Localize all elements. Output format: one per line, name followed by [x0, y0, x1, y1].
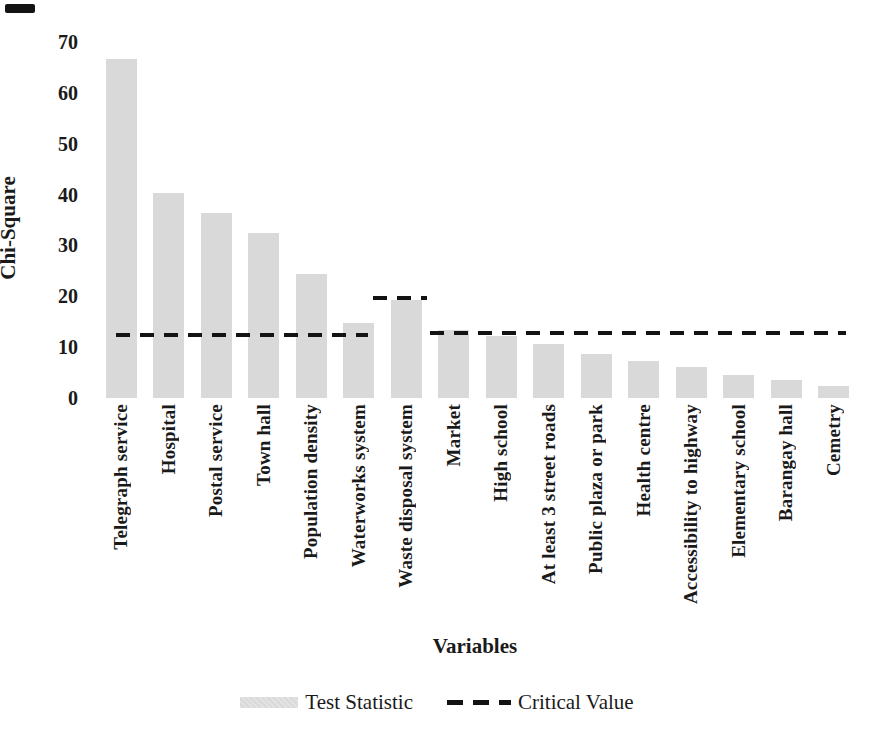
x-label-public-plaza-or-park: Public plaza or park [584, 404, 608, 574]
bar-at-least-3-street-roads [533, 344, 564, 398]
legend-label-critical-value: Critical Value [518, 690, 634, 715]
y-tick-label-50: 50 [0, 132, 78, 156]
y-tick-label-60: 60 [0, 81, 78, 105]
x-label-hospital: Hospital [157, 404, 181, 474]
x-label-elementary-school: Elementary school [727, 404, 751, 558]
x-label-telegraph-service: Telegraph service [109, 404, 133, 550]
x-label-cemetry: Cemetry [822, 404, 846, 476]
x-axis-title: Variables [100, 634, 850, 659]
bar-high-school [486, 336, 517, 398]
legend-item-test-statistic: Test Statistic [240, 690, 413, 715]
scan-artifact-mark [5, 4, 35, 13]
bar-postal-service [201, 213, 232, 398]
y-tick-label-20: 20 [0, 284, 78, 308]
x-label-high-school: High school [489, 404, 513, 502]
x-label-town-hall: Town hall [252, 404, 276, 486]
y-tick-label-0: 0 [0, 386, 78, 410]
bar-accessibility-to-highway [676, 367, 707, 398]
y-tick-label-30: 30 [0, 233, 78, 257]
x-label-at-least-3-street-roads: At least 3 street roads [537, 404, 561, 584]
bar-elementary-school [723, 375, 754, 398]
x-label-health-centre: Health centre [632, 404, 656, 517]
x-label-market: Market [442, 404, 466, 466]
bar-health-centre [628, 361, 659, 398]
bar-waste-disposal-system [391, 300, 422, 398]
bar-telegraph-service [106, 59, 137, 398]
y-tick-label-40: 40 [0, 183, 78, 207]
critical-value-segment-2 [373, 296, 428, 300]
bar-town-hall [248, 233, 279, 398]
chi-square-bar-chart: Chi-Square 010203040506070 Telegraph ser… [0, 0, 874, 739]
x-label-barangay-hall: Barangay hall [774, 404, 798, 521]
dashed-line-swatch-icon [447, 700, 511, 705]
y-tick-label-70: 70 [0, 30, 78, 54]
x-label-waste-disposal-system: Waste disposal system [394, 404, 418, 588]
critical-value-segment-1 [116, 333, 368, 337]
bar-public-plaza-or-park [581, 354, 612, 398]
legend-item-critical-value: Critical Value [447, 690, 634, 715]
bar-swatch-icon [240, 697, 298, 708]
legend: Test Statistic Critical Value [0, 690, 874, 715]
bar-barangay-hall [771, 380, 802, 398]
y-tick-label-10: 10 [0, 335, 78, 359]
bar-hospital [153, 193, 184, 398]
x-label-accessibility-to-highway: Accessibility to highway [679, 404, 703, 604]
critical-value-segment-3 [430, 331, 846, 335]
x-label-population-density: Population density [299, 404, 323, 559]
legend-label-test-statistic: Test Statistic [305, 690, 413, 715]
bar-market [438, 330, 469, 398]
x-label-postal-service: Postal service [204, 404, 228, 517]
x-label-waterworks-system: Waterworks system [347, 404, 371, 567]
bar-cemetry [818, 386, 849, 398]
